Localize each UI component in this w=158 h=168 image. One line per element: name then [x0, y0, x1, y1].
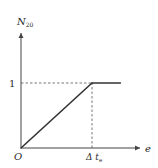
- x-tick-label-main: Δ t: [85, 152, 99, 162]
- y-axis-label: N20: [16, 16, 34, 28]
- origin-label: O: [14, 151, 22, 162]
- y-axis-label-sub: 20: [26, 21, 34, 28]
- x-tick-labels: Δ te: [85, 152, 102, 163]
- labels: N20 e O 1 Δ te: [9, 16, 151, 163]
- x-axis-label: e: [145, 143, 151, 154]
- x-tick-label: Δ te: [85, 152, 102, 163]
- x-tick-label-sub: e: [99, 157, 102, 163]
- series: [21, 83, 120, 148]
- y-tick-labels: 1: [9, 78, 15, 89]
- chart: N20 e O 1 Δ te: [0, 0, 158, 168]
- series-segment: [21, 83, 92, 148]
- y-tick-label: 1: [9, 78, 15, 89]
